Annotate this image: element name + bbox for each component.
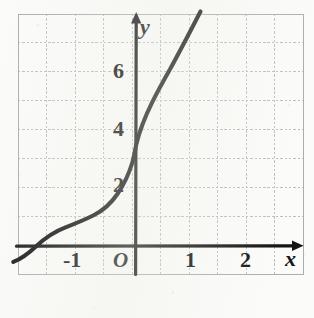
grid-lines (18, 14, 303, 274)
curve-exponential (13, 12, 200, 262)
y-tick-label-4: 4 (113, 118, 124, 140)
x-tick-label-1: 1 (185, 249, 196, 271)
x-axis-name-label: x (285, 248, 296, 270)
x-tick-label-minus-1: -1 (63, 249, 81, 271)
y-tick-label-2: 2 (113, 174, 124, 196)
y-axis-name-label: y (140, 16, 150, 38)
y-tick-label-6: 6 (113, 60, 124, 82)
origin-label: O (113, 250, 128, 271)
x-tick-label-2: 2 (240, 249, 251, 271)
coordinate-plane (0, 0, 314, 318)
scanned-figure: 6 4 2 y -1 1 2 O x (0, 0, 314, 318)
